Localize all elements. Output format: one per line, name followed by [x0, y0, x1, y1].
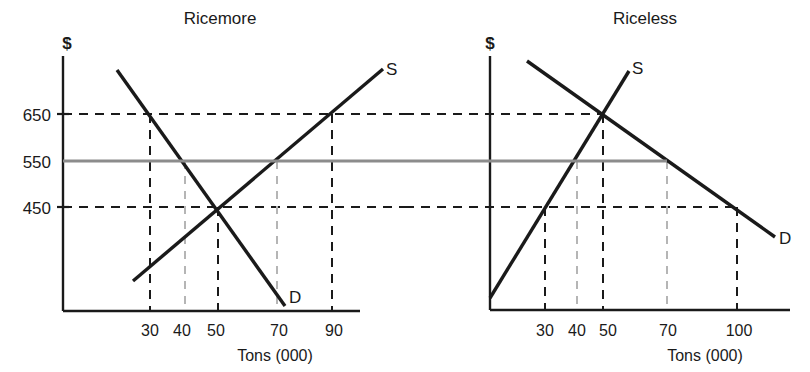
y-axis-label-riceless: $ [485, 34, 495, 53]
x-tick-label-100-riceless: 100 [726, 322, 753, 339]
y-tick-label-450-ricemore: 450 [23, 199, 51, 218]
panel-title-ricemore: Ricemore [184, 9, 257, 28]
figure-canvas: Ricemore $ 650 550 450 S [0, 0, 810, 372]
demand-curve-riceless [527, 61, 775, 237]
supply-curve-riceless [490, 71, 629, 298]
y-tick-label-650-ricemore: 650 [23, 106, 51, 125]
supply-curve-ricemore [133, 69, 383, 281]
y-tick-label-550-ricemore: 550 [23, 153, 51, 172]
demand-curve-label-ricemore: D [289, 288, 301, 307]
supply-curve-label-riceless: S [632, 59, 643, 78]
x-tick-label-50-ricemore: 50 [207, 322, 225, 339]
demand-curve-ricemore [117, 70, 285, 306]
x-tick-label-30-riceless: 30 [536, 322, 554, 339]
x-tick-label-40-riceless: 40 [568, 322, 586, 339]
x-tick-label-30-ricemore: 30 [141, 322, 159, 339]
supply-curve-label-ricemore: S [386, 60, 397, 79]
x-tick-label-90-ricemore: 90 [325, 322, 343, 339]
panel-ricemore: Ricemore $ 650 550 450 S [23, 9, 405, 364]
x-tick-label-40-ricemore: 40 [173, 322, 191, 339]
panel-riceless: Riceless $ S D 30 40 50 70 [405, 9, 791, 364]
x-tick-label-50-riceless: 50 [599, 322, 617, 339]
x-tick-label-70-riceless: 70 [659, 322, 677, 339]
y-axis-label-ricemore: $ [62, 34, 72, 53]
x-axis-title-riceless: Tons (000) [667, 347, 743, 364]
x-tick-label-70-ricemore: 70 [270, 322, 288, 339]
panel-title-riceless: Riceless [613, 9, 677, 28]
supply-demand-figure: Ricemore $ 650 550 450 S [0, 0, 810, 372]
x-axis-title-ricemore: Tons (000) [237, 347, 313, 364]
demand-curve-label-riceless: D [779, 229, 791, 248]
